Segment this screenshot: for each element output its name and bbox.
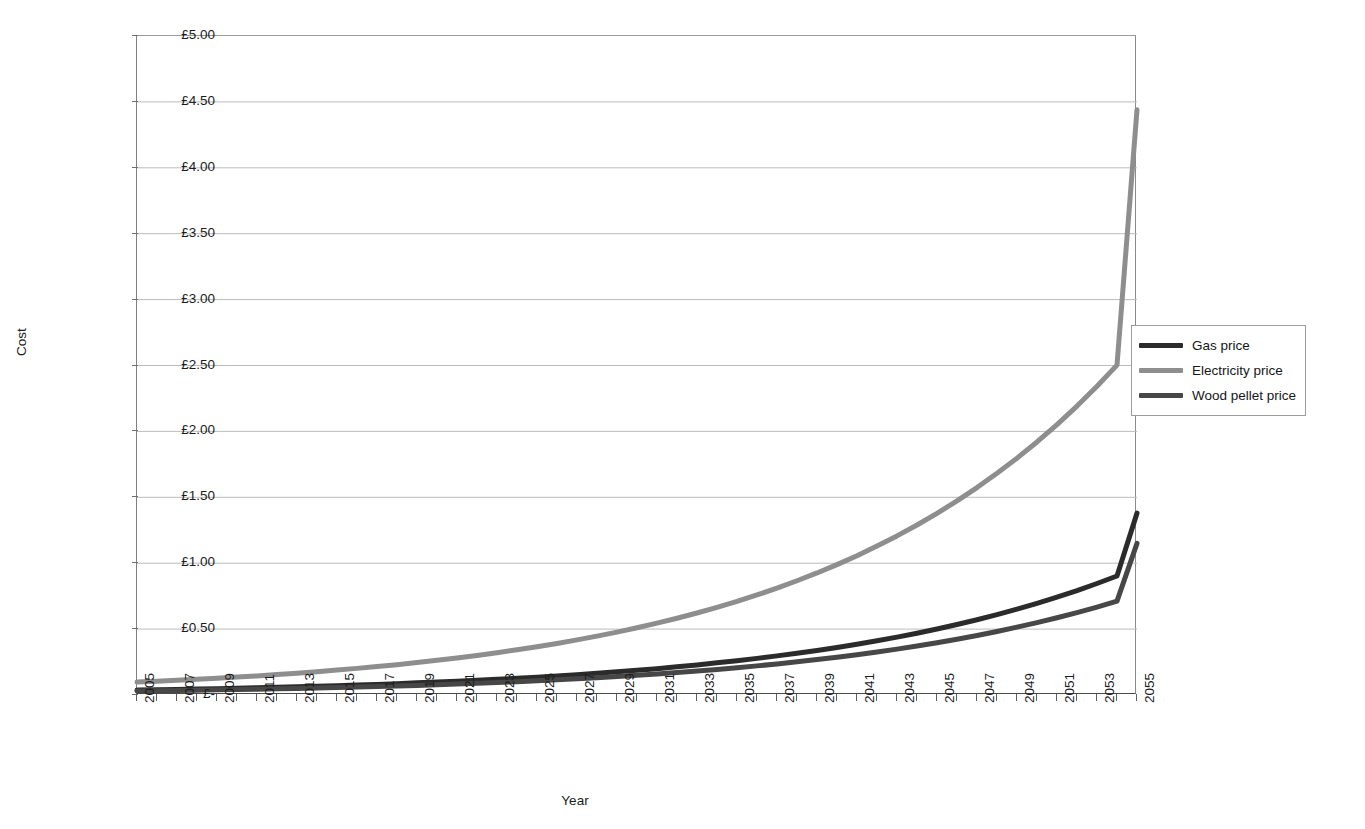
x-axis-tick-label: 2055 [1142,673,1157,703]
x-axis-tick-label: 2015 [342,673,357,703]
legend-swatch-icon [1139,368,1183,373]
x-axis-tick [576,694,577,701]
y-axis-tick-label: £3.00 [181,292,215,306]
series-lines-group [137,36,1137,695]
x-axis-tick [996,694,997,701]
legend-item[interactable]: Wood pellet price [1139,383,1296,408]
y-axis-tick [132,101,138,102]
legend-swatch-icon [1139,343,1183,348]
x-axis-tick [176,694,177,701]
legend-label: Wood pellet price [1192,388,1296,403]
x-axis-tick-label: 2037 [782,673,797,703]
x-axis-tick [256,694,257,701]
y-axis-tick [132,562,138,563]
x-axis-tick-label: 2009 [222,673,237,703]
x-axis-tick-label: 2035 [742,673,757,703]
y-axis-tick [132,365,138,366]
x-axis-tick [356,694,357,701]
x-axis-tick-label: 2011 [262,674,277,703]
x-axis-tick-label: 2013 [302,673,317,703]
x-axis-tick [876,694,877,701]
y-axis-tick-label: £1.00 [181,555,215,569]
y-axis-tick [132,694,138,695]
x-axis-tick [416,694,417,701]
y-axis-tick-label: £5.00 [181,28,215,42]
x-axis-tick-label: 2017 [382,673,397,703]
x-axis-tick [776,694,777,701]
y-axis-tick-label: £4.50 [181,94,215,108]
cut-off-header-text [0,0,1365,6]
x-axis-tick [276,694,277,701]
x-axis-tick-label: 2039 [822,673,837,703]
x-axis-tick [476,694,477,701]
x-axis-tick-label: 2041 [862,673,877,703]
x-axis-tick [816,694,817,701]
y-axis-tick [132,233,138,234]
y-axis-tick [132,167,138,168]
x-axis-tick-label: 2045 [942,673,957,703]
legend-item[interactable]: Gas price [1139,333,1296,358]
plot-area [136,35,1136,694]
x-axis-tick [516,694,517,701]
y-axis-tick [132,299,138,300]
x-axis-tick [216,694,217,701]
x-axis-tick [716,694,717,701]
x-axis-tick [676,694,677,701]
x-axis-tick [536,694,537,701]
x-axis-tick [1096,694,1097,701]
x-axis-tick [1116,694,1117,701]
x-axis-tick [1136,694,1137,701]
x-axis-tick [1036,694,1037,701]
y-axis-tick-label: £1.50 [181,489,215,503]
x-axis-tick [376,694,377,701]
legend-swatch-icon [1139,393,1183,398]
x-axis-tick [796,694,797,701]
x-axis-tick [556,694,557,701]
x-axis-tick [296,694,297,701]
x-axis-tick-label: 2031 [662,673,677,703]
chart-legend: Gas priceElectricity priceWood pellet pr… [1131,325,1306,416]
x-axis-tick [616,694,617,701]
x-axis-tick-label: 2051 [1062,673,1077,703]
x-axis-tick [896,694,897,701]
y-axis-tick [132,496,138,497]
legend-label: Electricity price [1192,363,1283,378]
y-axis-tick-label: £2.50 [181,358,215,372]
x-axis-tick-label: 2019 [422,673,437,703]
x-axis-tick-label: 2021 [462,673,477,703]
x-axis-tick [916,694,917,701]
x-axis-tick-label: 2053 [1102,673,1117,703]
x-axis-tick [156,694,157,701]
x-axis-tick-label: 2047 [982,673,997,703]
x-axis-tick [936,694,937,701]
x-axis-tick [316,694,317,701]
y-axis-title: Cost [14,328,29,356]
x-axis-tick-label: 2027 [582,673,597,703]
y-axis-tick [132,430,138,431]
x-axis-tick-label: 2007 [182,673,197,703]
x-axis-tick [456,694,457,701]
y-axis-tick-label: £0.50 [181,621,215,635]
x-axis-tick [1076,694,1077,701]
x-axis-tick [856,694,857,701]
x-axis-tick-label: 2043 [902,673,917,703]
x-axis-tick [196,694,197,701]
x-axis-tick [636,694,637,701]
x-axis-tick-label: 2023 [502,673,517,703]
x-axis-tick [736,694,737,701]
x-axis-tick-label: 2025 [542,673,557,703]
legend-item[interactable]: Electricity price [1139,358,1296,383]
x-axis-tick [656,694,657,701]
x-axis-tick [236,694,237,701]
y-axis-tick [132,35,138,36]
series-line-electricity-price [137,110,1137,682]
x-axis-tick-label: 2005 [142,673,157,703]
series-line-gas-price [137,513,1137,690]
y-axis-tick [132,628,138,629]
chart-page: £5.00£4.50£4.00£3.50£3.00£2.50£2.00£1.50… [0,0,1365,829]
x-axis-tick [336,694,337,701]
y-axis-tick-label: £2.00 [181,423,215,437]
y-axis-tick-label: £3.50 [181,226,215,240]
y-axis-tick-label: £- [203,687,215,701]
x-axis-tick [436,694,437,701]
